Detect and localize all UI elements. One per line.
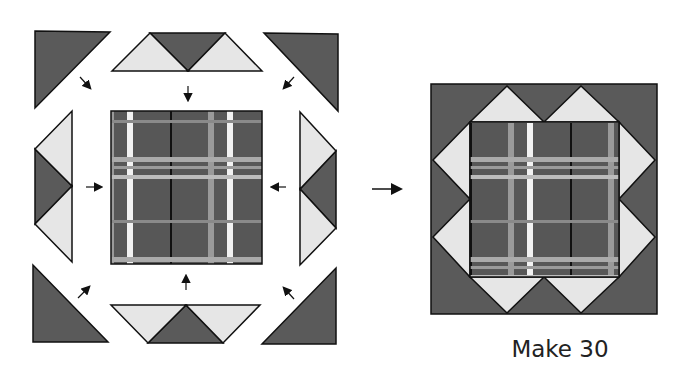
caption-make-30: Make 30 (490, 336, 630, 362)
plaid-center-square (111, 111, 262, 264)
finished-block (431, 84, 657, 314)
quilt-assembly-diagram (0, 0, 682, 385)
flying-geese-top (112, 33, 262, 71)
corner-triangle-tl (35, 31, 110, 108)
flying-geese-right (300, 112, 336, 265)
corner-triangle-tr (264, 33, 338, 111)
corner-triangle-bl (33, 265, 108, 342)
flying-geese-left (35, 111, 72, 262)
flying-geese-bottom (111, 305, 260, 343)
corner-triangle-br (262, 268, 336, 344)
